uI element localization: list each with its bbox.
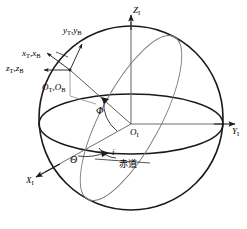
yt-yb-axis-label: yT,yB [63, 26, 82, 35]
x-axis-label: XI [26, 176, 34, 185]
z-axis-label: ZI [133, 6, 140, 15]
equator-label: 赤道 [119, 160, 137, 169]
ob-subscript: B [61, 86, 65, 93]
origin-inertial-subscript: I [137, 131, 139, 138]
phi-angle-arc [104, 100, 117, 131]
inclination-angle-label: i [112, 148, 115, 157]
xt-xb-axis-arrow [47, 53, 70, 70]
x-axis-subscript: I [32, 179, 34, 186]
x-axis-symbol: X [26, 175, 32, 185]
y-axis-subscript: I [237, 130, 239, 137]
zt-symbol: z [6, 63, 10, 73]
ot-subscript: T [49, 86, 53, 93]
xb-subscript: B [36, 52, 40, 59]
origin-inertial-label: OI [130, 128, 139, 137]
satellite-point [69, 69, 72, 72]
zb-subscript: B [19, 67, 23, 74]
figure-canvas [0, 0, 247, 229]
xt-xb-axis-label: xT,xB [22, 49, 41, 58]
xt-subscript: T [26, 52, 30, 59]
theta-angle-label: Θ [70, 155, 77, 165]
ot-symbol: O [42, 82, 49, 92]
y-axis-label: YI [232, 127, 239, 136]
ot-ob-origin-label: OT,OB [42, 83, 66, 92]
yt-subscript: T [67, 29, 71, 36]
phi-angle-label: Φ [96, 106, 104, 116]
zt-zb-axis-label: zT,zB [6, 64, 24, 73]
origin-inertial-symbol: O [130, 127, 137, 137]
z-axis-subscript: I [138, 9, 140, 16]
orbit-geometry-figure: ZI YI XI OI yT,yB xT,xB zT,zB OT,OB Φ Θ … [0, 0, 247, 229]
zt-subscript: T [10, 67, 14, 74]
yb-subscript: B [77, 29, 81, 36]
